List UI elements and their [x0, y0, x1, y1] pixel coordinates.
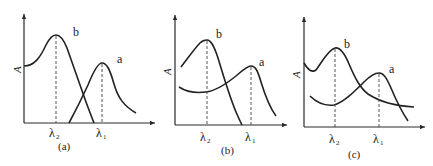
- svg-text:λ: λ: [373, 132, 379, 146]
- tick-lambda2: λ 2: [200, 130, 211, 145]
- curve-b-label: b: [73, 25, 79, 39]
- absorption-spectra-figure: A b a λ 2 λ 1 (a) A b a λ 2: [0, 0, 433, 166]
- svg-text:λ: λ: [96, 126, 102, 140]
- panel-caption: (a): [58, 140, 71, 153]
- curve-a-label: a: [259, 55, 265, 69]
- panel-b: A b a λ 2 λ 1 (b): [161, 15, 287, 157]
- y-axis-label: A: [290, 71, 302, 79]
- curve-b: [304, 48, 414, 107]
- svg-text:λ: λ: [245, 130, 251, 144]
- svg-text:1: 1: [252, 137, 256, 145]
- curve-a-label: a: [389, 62, 395, 76]
- panel-caption: (b): [221, 144, 234, 157]
- panel-caption: (c): [348, 148, 361, 161]
- curve-a: [69, 63, 136, 123]
- curve-b-label: b: [344, 37, 350, 51]
- svg-text:1: 1: [380, 139, 384, 147]
- curve-b-label: b: [216, 27, 222, 41]
- y-axis-label: A: [11, 66, 23, 74]
- svg-text:1: 1: [103, 133, 107, 141]
- svg-text:2: 2: [207, 137, 211, 145]
- curve-a-label: a: [117, 52, 123, 66]
- svg-text:λ: λ: [200, 130, 206, 144]
- tick-lambda1: λ 1: [96, 126, 107, 141]
- curve-b: [24, 35, 94, 123]
- curve-a: [179, 66, 276, 116]
- tick-lambda2: λ 2: [49, 126, 60, 141]
- svg-text:2: 2: [336, 139, 340, 147]
- svg-text:λ: λ: [49, 126, 55, 140]
- svg-text:λ: λ: [329, 132, 335, 146]
- tick-lambda1: λ 1: [245, 130, 256, 145]
- panel-c: A b a λ 2 λ 1 (c): [290, 17, 425, 161]
- panel-a: A b a λ 2 λ 1 (a): [11, 14, 155, 153]
- curve-a: [310, 73, 408, 121]
- tick-lambda1: λ 1: [373, 132, 384, 147]
- y-axis-label: A: [161, 68, 173, 76]
- curve-b: [181, 40, 242, 125]
- tick-lambda2: λ 2: [329, 132, 340, 147]
